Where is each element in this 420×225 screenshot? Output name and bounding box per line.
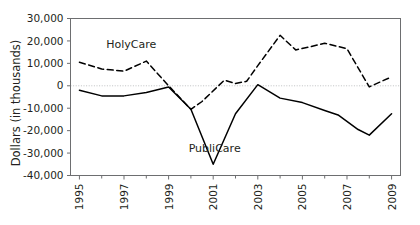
x-tick-label: 2001 [207,184,219,211]
line-chart: Dollars (in thousands) -40,000-30,000-20… [0,0,420,225]
y-tick-marks [67,19,71,176]
x-tick-label: 2005 [296,184,308,211]
y-tick-label: 30,000 [27,12,64,24]
chart-figure: Dollars (in thousands) -40,000-30,000-20… [0,0,420,225]
y-tick-label: 0 [57,79,64,91]
y-tick-label: -10,000 [23,102,64,114]
x-tick-label: 2003 [252,184,264,211]
y-tick-label: -40,000 [23,169,64,181]
y-tick-label: -20,000 [23,124,64,136]
x-tick-labels: 19951997199920012003200520072009 [73,184,397,211]
x-tick-label: 2009 [386,184,398,211]
y-tick-label: 10,000 [27,57,64,69]
series-annotations: HolyCarePubliCare [106,38,241,155]
y-axis-title: Dollars (in thousands) [9,40,23,167]
x-tick-label: 1999 [163,184,175,211]
x-tick-label: 1995 [73,184,85,211]
x-tick-label: 2007 [341,184,353,211]
y-tick-label: -30,000 [23,147,64,159]
x-tick-marks [79,176,391,180]
series-label-holycare: HolyCare [106,38,156,51]
y-tick-labels: -40,000-30,000-20,000-10,000010,00020,00… [23,12,64,181]
y-tick-label: 20,000 [27,35,64,47]
series-label-publicare: PubliCare [189,142,241,155]
y-axis-title-group: Dollars (in thousands) [9,40,23,167]
x-tick-label: 1997 [118,184,130,211]
